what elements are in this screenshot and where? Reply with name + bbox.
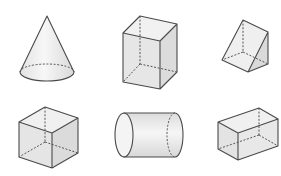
cone-surface xyxy=(20,16,74,81)
triangular-prism-shape xyxy=(222,20,268,72)
cylinder-shape xyxy=(115,113,183,157)
cone-shape xyxy=(20,16,74,81)
prism-front-face xyxy=(123,33,160,89)
rectangular-prism-wide-shape xyxy=(218,108,278,160)
geometric-solids-figure xyxy=(0,0,281,176)
cube-shape xyxy=(19,107,78,168)
rectangular-prism-tall-shape xyxy=(123,16,177,89)
